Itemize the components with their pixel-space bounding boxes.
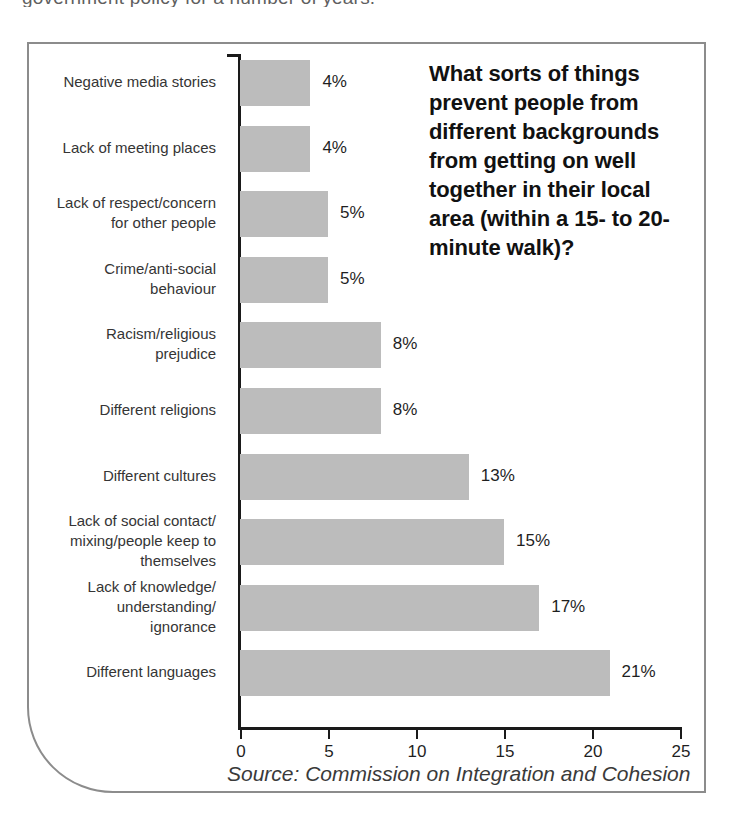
x-axis-tick [328,727,330,739]
category-label: Different cultures [103,466,216,486]
x-axis-tick-label: 5 [324,742,333,762]
bar-value-label: 4% [322,138,347,158]
x-axis-tick-label: 20 [584,742,603,762]
category-label: Lack of respect/concern for other people [57,193,216,233]
category-label: Crime/anti-social behaviour [104,259,216,299]
x-axis-tick [680,727,682,739]
category-label: Lack of social contact/ mixing/people ke… [68,511,216,571]
bar [240,585,539,631]
bar [240,257,328,303]
bar-value-label: 8% [393,334,418,354]
category-label: Negative media stories [63,72,216,92]
bar-value-label: 5% [340,203,365,223]
category-label: Lack of meeting places [63,138,216,158]
bar [240,519,504,565]
x-axis-tick-label: 15 [496,742,515,762]
bar-value-label: 4% [322,72,347,92]
bar [240,388,381,434]
bar [240,322,381,368]
bar [240,191,328,237]
bar [240,126,310,172]
bar-value-label: 5% [340,269,365,289]
bar-value-label: 17% [551,597,585,617]
x-axis-tick-label: 25 [672,742,691,762]
x-axis-tick [416,727,418,739]
bar-value-label: 15% [516,531,550,551]
x-axis-tick [592,727,594,739]
bar-value-label: 21% [622,662,656,682]
bar-value-label: 13% [481,466,515,486]
category-label: Different languages [86,662,216,682]
bar [240,60,310,106]
cropped-body-text: government policy for a number of years. [22,0,582,7]
category-label: Different religions [100,400,216,420]
source-note: Source: Commission on Integration and Co… [227,762,690,786]
bar [240,650,610,696]
x-axis-line [238,727,680,730]
category-label: Lack of knowledge/ understanding/ ignora… [88,577,216,637]
x-axis-tick [504,727,506,739]
chart-title: What sorts of things prevent people from… [429,59,697,262]
x-axis-tick-label: 0 [236,742,245,762]
x-axis-tick-label: 10 [408,742,427,762]
figure-frame: 4%Negative media stories4%Lack of meetin… [27,42,706,793]
bar-value-label: 8% [393,400,418,420]
x-axis-tick [240,727,242,739]
bar [240,454,469,500]
category-label: Racism/religious prejudice [106,324,216,364]
